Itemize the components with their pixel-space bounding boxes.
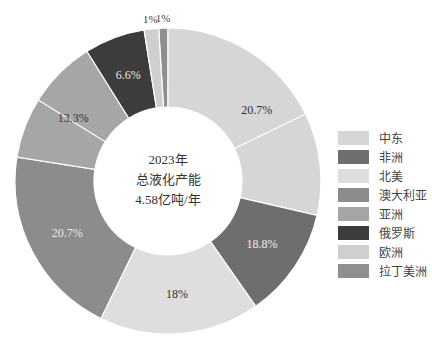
legend-item: 亚洲: [338, 204, 427, 223]
center-label: 2023年 总液化产能 4.58亿吨/年: [108, 150, 228, 210]
legend-item: 非洲: [338, 147, 427, 166]
center-label-value: 4.58亿吨/年: [108, 190, 228, 210]
legend-item: 拉丁美洲: [338, 261, 427, 280]
legend-label: 非洲: [379, 148, 403, 166]
legend-label: 拉丁美洲: [379, 262, 427, 280]
segment-label: 20.7%: [52, 226, 83, 240]
legend-item: 中东: [338, 128, 427, 147]
segment-label: 18.8%: [247, 237, 278, 251]
legend-item: 北美: [338, 166, 427, 185]
legend-swatch: [338, 245, 369, 259]
center-label-title: 总液化产能: [108, 170, 228, 190]
segment-label: 1%: [156, 12, 171, 24]
legend-swatch: [338, 188, 369, 202]
legend-swatch: [338, 226, 369, 240]
legend: 中东 非洲 北美 澳大利亚 亚洲 俄罗斯 欧洲 拉丁美洲: [338, 128, 427, 280]
segment-label: 13.3%: [58, 111, 89, 125]
legend-label: 中东: [379, 129, 403, 147]
legend-swatch: [338, 169, 369, 183]
legend-item: 欧洲: [338, 242, 427, 261]
legend-swatch: [338, 207, 369, 221]
legend-label: 北美: [379, 167, 403, 185]
legend-swatch: [338, 264, 369, 278]
legend-label: 俄罗斯: [379, 224, 415, 242]
legend-swatch: [338, 131, 369, 145]
center-label-year: 2023年: [108, 150, 228, 170]
segment-label: 1%: [143, 13, 158, 25]
legend-swatch: [338, 150, 369, 164]
legend-label: 亚洲: [379, 205, 403, 223]
segment-label: 20.7%: [241, 103, 272, 117]
segment-label: 18%: [166, 287, 188, 301]
legend-label: 欧洲: [379, 243, 403, 261]
legend-label: 澳大利亚: [379, 186, 427, 204]
legend-item: 澳大利亚: [338, 185, 427, 204]
segment-label: 6.6%: [116, 68, 141, 82]
legend-item: 俄罗斯: [338, 223, 427, 242]
